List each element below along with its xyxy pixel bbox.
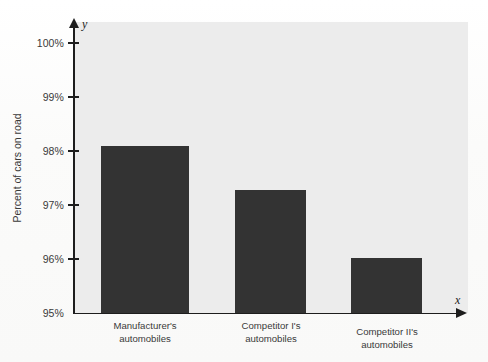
bar-competitor-2 [351, 258, 422, 313]
y-axis-variable-label: y [82, 17, 87, 32]
y-tick-label-99: 99% [20, 91, 64, 103]
x-axis-variable-label: x [455, 293, 460, 308]
y-axis-line [73, 26, 75, 314]
y-tick-label-96: 96% [20, 253, 64, 265]
y-axis-title: Percent of cars on road [11, 88, 23, 248]
y-tick-label-wrap-100: 100% [14, 37, 64, 49]
y-tick-100 [68, 42, 79, 43]
bar-manufacturer [101, 146, 189, 313]
category-label-competitor-2: Competitor II's automobiles [327, 326, 447, 351]
y-tick-99 [68, 96, 79, 97]
y-axis-arrow-icon [69, 18, 79, 28]
y-tick-label-98: 98% [20, 145, 64, 157]
category-label-competitor-1: Competitor I's automobiles [211, 320, 331, 345]
y-tick-label-100: 100% [20, 37, 64, 49]
y-tick-label-wrap-95: 95% [14, 307, 64, 319]
y-tick-label-95: 95% [20, 307, 64, 319]
y-tick-98 [68, 150, 79, 151]
y-tick-96 [68, 258, 79, 259]
bar-chart-figure: y x 100% 99% 98% 97% 96% 95% Percent of … [0, 0, 488, 362]
x-axis-arrow-icon [456, 308, 467, 318]
y-tick-97 [68, 204, 79, 205]
y-tick-label-wrap-96: 96% [14, 253, 64, 265]
x-axis-line [73, 313, 458, 315]
y-tick-label-97: 97% [20, 199, 64, 211]
category-label-manufacturer: Manufacturer's automobiles [85, 320, 205, 345]
bar-competitor-1 [235, 190, 306, 313]
